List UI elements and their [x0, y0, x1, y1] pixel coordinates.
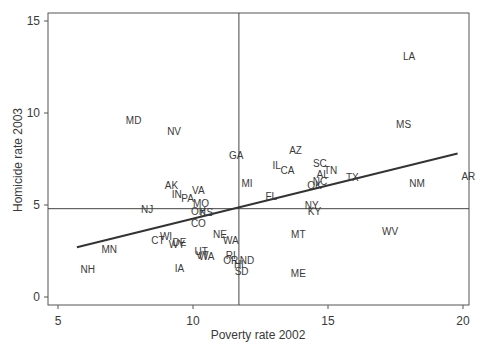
point-label: MT — [291, 229, 305, 240]
point-label: KS — [200, 207, 214, 218]
y-tick-label: 10 — [27, 106, 41, 120]
point-label: AR — [461, 171, 475, 182]
point-label: OK — [307, 180, 322, 191]
point-label: IA — [175, 263, 185, 274]
point-label: WA — [199, 251, 215, 262]
point-label: TX — [346, 172, 359, 183]
point-label: NJ — [141, 204, 153, 215]
point-label: LA — [403, 51, 416, 62]
point-label: MS — [396, 119, 411, 130]
point-label: MN — [102, 244, 118, 255]
point-label: SD — [235, 266, 249, 277]
x-axis: 5101520 — [55, 305, 470, 328]
y-tick-label: 15 — [27, 14, 41, 28]
point-label: WV — [382, 226, 398, 237]
point-label: WY — [169, 239, 185, 250]
point-label: MD — [126, 115, 142, 126]
point-label: NM — [409, 178, 425, 189]
point-label: VA — [192, 185, 205, 196]
point-label: CA — [281, 165, 295, 176]
point-label: GA — [229, 150, 244, 161]
x-axis-title: Poverty rate 2002 — [211, 328, 306, 342]
point-label: NV — [167, 126, 181, 137]
x-tick-label: 20 — [456, 314, 470, 328]
point-label: AZ — [289, 145, 302, 156]
y-axis: 051015 — [27, 14, 48, 304]
point-label: CT — [151, 235, 164, 246]
point-label: KY — [308, 206, 322, 217]
x-tick-label: 10 — [186, 314, 200, 328]
scatter-chart: LAMDNVMSGAAZILCASCTNALNCOKTXNMARMIFLAKIN… — [0, 0, 484, 351]
point-labels: LAMDNVMSGAAZILCASCTNALNCOKTXNMARMIFLAKIN… — [80, 51, 475, 279]
x-tick-label: 5 — [55, 314, 62, 328]
y-tick-label: 0 — [33, 290, 40, 304]
y-tick-label: 5 — [33, 198, 40, 212]
x-tick-label: 15 — [321, 314, 335, 328]
point-label: CO — [191, 218, 206, 229]
point-label: WA — [223, 235, 239, 246]
point-label: NH — [80, 264, 94, 275]
point-label: ME — [291, 268, 306, 279]
point-label: FL — [265, 191, 277, 202]
y-axis-title: Homicide rate 2003 — [11, 108, 25, 212]
point-label: MI — [241, 178, 252, 189]
